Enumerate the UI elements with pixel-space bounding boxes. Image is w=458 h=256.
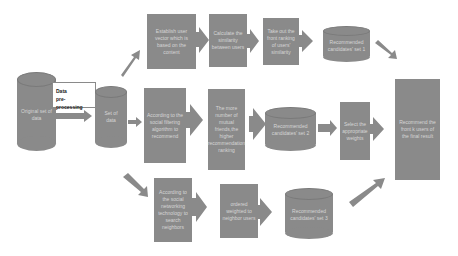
calculate-similarity-label: Calculate the similarity between users bbox=[211, 30, 245, 51]
candidates-set-3-cylinder: Recommended candidates' set 3 bbox=[285, 188, 333, 239]
arrow-right-icon bbox=[196, 27, 209, 53]
preprocessing-label-line2: pre-processing bbox=[56, 95, 92, 111]
mutual-friends-label: The more number of mutual friends,the hi… bbox=[208, 105, 245, 154]
preprocessing-label-line1: Data bbox=[56, 87, 92, 95]
original-data-label: Original set of data bbox=[17, 108, 56, 122]
arrow-down-right-icon bbox=[375, 40, 397, 59]
set-of-data-cylinder: Set of data bbox=[95, 86, 127, 148]
final-result-label: Recommend the front k users of the final… bbox=[397, 119, 438, 140]
select-weights-box: Select the appropriate weights bbox=[340, 102, 370, 160]
mutual-friends-box: The more number of mutual friends,the hi… bbox=[208, 89, 245, 170]
arrow-right-icon bbox=[186, 104, 203, 136]
candidates-set-1-label: Recommended candidates' set 1 bbox=[323, 39, 370, 53]
arrow-up-right-icon bbox=[349, 178, 385, 207]
ordered-weighted-box: ordered weighted to neighbor users bbox=[220, 184, 258, 238]
candidates-set-1-cylinder: Recommended candidates' set 1 bbox=[323, 26, 370, 62]
arrow-up-right-icon bbox=[121, 50, 140, 77]
arrow-right-icon bbox=[370, 117, 384, 141]
arrow-right-icon bbox=[299, 30, 313, 52]
search-neighbors-box: According to the social networking techn… bbox=[154, 178, 192, 242]
arrow-right-icon bbox=[192, 192, 207, 222]
arrow-right-icon bbox=[256, 198, 272, 226]
set-of-data-label: Set of data bbox=[95, 110, 127, 124]
search-neighbors-label: According to the social networking techn… bbox=[156, 189, 190, 231]
ordered-weighted-label: ordered weighted to neighbor users bbox=[222, 201, 256, 222]
arrow-preprocess-icon bbox=[54, 110, 92, 122]
social-filtering-label: According to the social filtering algori… bbox=[146, 112, 184, 140]
preprocessing-label: Data pre-processing bbox=[52, 82, 96, 108]
candidates-set-2-label: Recommended candidates' set 2 bbox=[265, 123, 316, 137]
social-filtering-box: According to the social filtering algori… bbox=[144, 88, 186, 163]
arrow-down-right-icon bbox=[123, 173, 148, 197]
original-data-cylinder: Original set of data bbox=[17, 72, 56, 151]
select-weights-label: Select the appropriate weights bbox=[342, 121, 368, 142]
establish-user-vector-label: Establish user vector which is based on … bbox=[149, 28, 194, 56]
calculate-similarity-box: Calculate the similarity between users bbox=[209, 14, 247, 67]
arrow-right-icon bbox=[128, 117, 142, 127]
candidates-set-3-label: Recommended candidates' set 3 bbox=[285, 208, 333, 222]
front-ranking-box: Take out the front ranking of users' sim… bbox=[263, 18, 299, 65]
arrow-right-icon bbox=[318, 120, 337, 136]
front-ranking-label: Take out the front ranking of users' sim… bbox=[265, 28, 297, 56]
establish-user-vector-box: Establish user vector which is based on … bbox=[147, 14, 196, 69]
arrow-right-icon bbox=[247, 29, 259, 53]
final-result-box: Recommend the front k users of the final… bbox=[395, 79, 440, 180]
candidates-set-2-cylinder: Recommended candidates' set 2 bbox=[265, 107, 316, 151]
arrow-right-icon bbox=[249, 108, 266, 140]
